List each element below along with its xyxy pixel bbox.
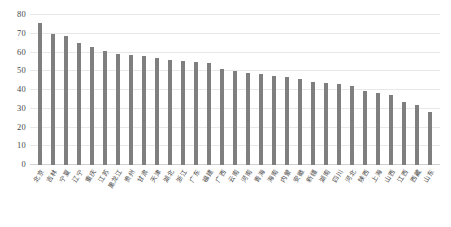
bar-slot: [189, 15, 202, 165]
x-axis-tick-label: 湖南: [319, 168, 332, 183]
x-axis-tick-label: 山西: [384, 168, 397, 183]
bar[interactable]: [51, 34, 55, 165]
x-label-slot: 甘肃: [137, 167, 150, 225]
bar[interactable]: [298, 79, 302, 165]
bar[interactable]: [285, 77, 289, 165]
bar-slot: [255, 15, 268, 165]
x-label-slot: 海南: [268, 167, 281, 225]
x-label-slot: 黑龙江: [111, 167, 124, 225]
x-axis-tick-label: 河北: [345, 168, 358, 183]
x-label-slot: 江西: [398, 167, 411, 225]
bar[interactable]: [220, 69, 224, 165]
bar[interactable]: [259, 74, 263, 165]
x-axis-tick-label: 新疆: [306, 168, 319, 183]
bar[interactable]: [181, 61, 185, 165]
bar-slot: [372, 15, 385, 165]
x-axis-tick-label: 广西: [215, 168, 228, 183]
x-label-slot: 河南: [242, 167, 255, 225]
bar-slot: [228, 15, 241, 165]
x-axis-tick-label: 贵州: [124, 168, 137, 183]
bar-slot: [346, 15, 359, 165]
x-axis-tick-label: 天津: [150, 168, 163, 183]
x-axis-tick-label: 广东: [189, 168, 202, 183]
bar[interactable]: [233, 71, 237, 165]
x-label-slot: 广西: [215, 167, 228, 225]
y-axis-tick-label: 20: [17, 122, 30, 131]
bar-slot: [202, 15, 215, 165]
y-axis-tick-label: 40: [17, 85, 30, 94]
bar-slot: [281, 15, 294, 165]
bar[interactable]: [77, 43, 81, 165]
bar-slot: [33, 15, 46, 165]
bar-slot: [385, 15, 398, 165]
x-label-slot: 北京: [33, 167, 46, 225]
bar[interactable]: [337, 84, 341, 165]
bar-slot: [124, 15, 137, 165]
x-label-slot: 安徽: [294, 167, 307, 225]
bar-slot: [411, 15, 424, 165]
bar[interactable]: [376, 93, 380, 165]
y-axis-tick-label: 60: [17, 47, 30, 56]
bar-slot: [72, 15, 85, 165]
x-axis-tick-label: 上海: [371, 168, 384, 183]
bar[interactable]: [415, 105, 419, 165]
bar-slot: [424, 15, 437, 165]
bar-slot: [176, 15, 189, 165]
bar[interactable]: [103, 51, 107, 165]
bar[interactable]: [155, 58, 159, 165]
x-label-slot: 广东: [189, 167, 202, 225]
bar[interactable]: [402, 102, 406, 165]
bar-slot: [46, 15, 59, 165]
x-label-slot: 宁夏: [59, 167, 72, 225]
x-axis-tick-label: 四川: [332, 168, 345, 183]
bar[interactable]: [389, 95, 393, 166]
bar[interactable]: [350, 86, 354, 165]
x-label-slot: 西藏: [411, 167, 424, 225]
bar-slot: [398, 15, 411, 165]
bar-slot: [111, 15, 124, 165]
bar[interactable]: [207, 63, 211, 165]
bar[interactable]: [272, 76, 276, 165]
bar[interactable]: [311, 82, 315, 165]
bar[interactable]: [324, 83, 328, 165]
bar[interactable]: [363, 91, 367, 165]
x-axis-tick-label: 湖北: [163, 168, 176, 183]
bar-series: [30, 15, 440, 165]
x-axis-tick-label: 海南: [267, 168, 280, 183]
bar[interactable]: [64, 36, 68, 165]
y-axis-tick-label: 50: [17, 66, 30, 75]
x-axis-tick-label: 吉林: [46, 168, 59, 183]
bar[interactable]: [428, 112, 432, 165]
bar[interactable]: [116, 54, 120, 165]
x-label-slot: 山西: [385, 167, 398, 225]
x-axis-tick-label: 陕西: [358, 168, 371, 183]
bar[interactable]: [246, 73, 250, 165]
plot-area: 01020304050607080: [30, 15, 440, 165]
bar-slot: [242, 15, 255, 165]
bar[interactable]: [90, 47, 94, 165]
bar-slot: [150, 15, 163, 165]
x-label-slot: 陕西: [359, 167, 372, 225]
x-axis-tick-label: 云南: [228, 168, 241, 183]
x-axis-labels: 北京吉林宁夏辽宁重庆江苏黑龙江贵州甘肃天津湖北浙江广东福建广西云南河南青海海南内…: [30, 167, 440, 225]
x-axis-tick-label: 重庆: [85, 168, 98, 183]
x-label-slot: 内蒙: [281, 167, 294, 225]
bar-slot: [98, 15, 111, 165]
y-axis-tick-label: 80: [17, 10, 30, 19]
bar[interactable]: [129, 55, 133, 165]
bar[interactable]: [142, 56, 146, 165]
bar-slot: [320, 15, 333, 165]
y-axis-tick-label: 0: [22, 160, 30, 169]
x-axis-tick-label: 安徽: [293, 168, 306, 183]
x-label-slot: 湖北: [163, 167, 176, 225]
bar[interactable]: [38, 23, 42, 165]
x-label-slot: 青海: [255, 167, 268, 225]
bar[interactable]: [194, 62, 198, 165]
x-label-slot: 浙江: [176, 167, 189, 225]
x-label-slot: 四川: [333, 167, 346, 225]
x-axis-tick-label: 北京: [33, 168, 46, 183]
x-label-slot: 辽宁: [72, 167, 85, 225]
bar-slot: [268, 15, 281, 165]
bar[interactable]: [168, 60, 172, 165]
x-axis-tick-label: 宁夏: [59, 168, 72, 183]
